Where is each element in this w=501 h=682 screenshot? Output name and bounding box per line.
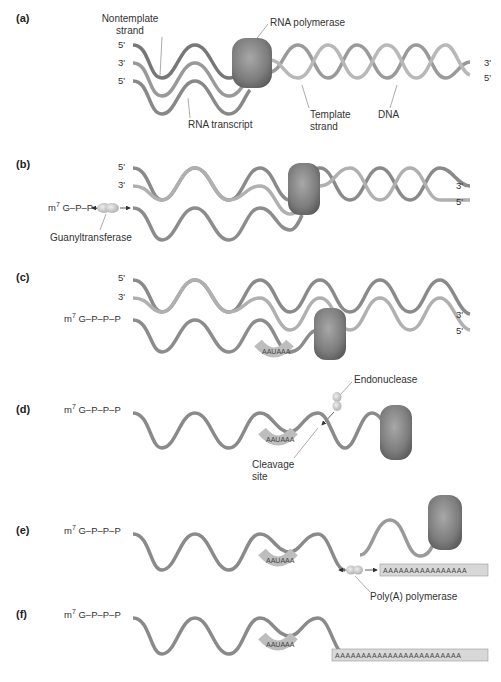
panel-label-a: (a) <box>16 12 30 24</box>
cap-structure: m7 G–P–P–P <box>64 524 121 536</box>
svg-text:AAAAAAAAAAAAAAAA: AAAAAAAAAAAAAAAA <box>383 567 467 574</box>
rna-polymerase-shape <box>380 405 412 460</box>
panel-e: (e) m7 G–P–P–P AAUAAA Poly(A) polymerase… <box>16 495 488 602</box>
panel-f: (f) m7 G–P–P–P AAUAAA AAAAAAAAAAAAAAAAAA… <box>16 608 488 661</box>
signal-sequence-box: AAUAAA <box>258 343 291 355</box>
rna-polymerase-shape <box>314 308 346 360</box>
strand-end-5prime: 5' <box>118 39 125 50</box>
guanyltransferase-label: Guanyltransferase <box>50 232 132 243</box>
template-strand-label: Template <box>310 109 351 120</box>
strand-end-3prime: 3' <box>118 57 125 68</box>
panel-label-b: (b) <box>16 158 30 170</box>
template-strand-label-2: strand <box>310 121 338 132</box>
svg-text:AAUAAA: AAUAAA <box>266 557 295 564</box>
rna-polymerase-label: RNA polymerase <box>270 17 345 28</box>
panel-c: (c) 5' 3' m7 G–P–P–P AAUAAA 3' 5' <box>16 271 470 360</box>
cleavage-site-label-2: site <box>252 471 268 482</box>
rna-polymerase-shape <box>288 163 320 215</box>
polya-tail-complete: AAAAAAAAAAAAAAAAAAAAAAAA <box>332 649 488 661</box>
panel-label-c: (c) <box>16 271 30 283</box>
cap-structure: m7 G–P–P–P <box>48 201 105 213</box>
signal-sequence-box: AAUAAA <box>262 636 295 648</box>
nontemplate-strand-label: Nontemplate <box>102 13 159 24</box>
strand-end-5prime: 5' <box>118 75 125 86</box>
rna-polymerase-shape <box>428 495 462 550</box>
strand-end-3prime: 3' <box>484 57 491 68</box>
endonuclease-shape <box>333 392 342 402</box>
polya-tail-growing: AAAAAAAAAAAAAAAA <box>380 564 488 576</box>
nontemplate-strand-label-2: strand <box>116 25 144 36</box>
panel-label-e: (e) <box>16 524 30 536</box>
panel-label-f: (f) <box>16 608 27 620</box>
strand-end-5prime: 5' <box>456 196 463 207</box>
strand-end-3prime: 3' <box>456 309 463 320</box>
signal-sequence-box: AAUAAA <box>262 552 295 564</box>
rna-transcript-label: RNA transcript <box>188 119 253 130</box>
transcription-processing-diagram: (a) Nontemplate strand RNA polymerase 5'… <box>0 0 501 682</box>
endonuclease-label: Endonuclease <box>354 374 418 385</box>
dna-label: DNA <box>378 109 399 120</box>
strand-end-5prime: 5' <box>118 272 125 283</box>
rna-polymerase-shape <box>232 38 272 88</box>
panel-label-d: (d) <box>16 403 30 415</box>
svg-text:AAUAAA: AAUAAA <box>266 641 295 648</box>
signal-sequence-box: AAUAAA <box>262 431 295 443</box>
cap-structure: m7 G–P–P–P <box>64 608 121 620</box>
cap-structure: m7 G–P–P–P <box>64 312 121 324</box>
panel-d: (d) m7 G–P–P–P Endonuclease AAUAAA Cleav… <box>16 374 418 482</box>
strand-end-5prime: 5' <box>484 72 491 83</box>
cap-structure: m7 G–P–P–P <box>64 403 121 415</box>
svg-text:AAUAAA: AAUAAA <box>266 436 295 443</box>
strand-end-3prime: 3' <box>456 180 463 191</box>
svg-text:AAAAAAAAAAAAAAAAAAAAAAAA: AAAAAAAAAAAAAAAAAAAAAAAA <box>335 652 461 659</box>
panel-b: (b) 5' 3' m7 G–P–P–P Guanyltransferase 3… <box>16 158 470 243</box>
strand-end-5prime: 5' <box>118 161 125 172</box>
panel-a: (a) Nontemplate strand RNA polymerase 5'… <box>16 12 491 132</box>
strand-end-3prime: 3' <box>118 179 125 190</box>
strand-end-5prime: 5' <box>456 325 463 336</box>
polya-polymerase-label: Poly(A) polymerase <box>370 591 458 602</box>
strand-end-3prime: 3' <box>118 291 125 302</box>
svg-text:AAUAAA: AAUAAA <box>262 348 291 355</box>
cleavage-site-label: Cleavage <box>252 459 295 470</box>
